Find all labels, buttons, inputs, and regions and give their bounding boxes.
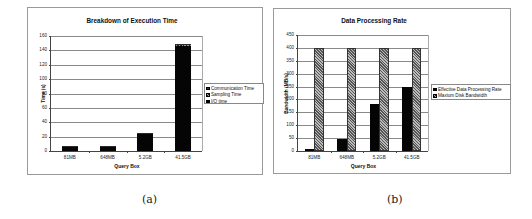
y-tick-label: 0 <box>278 148 294 153</box>
y-tick-label: 250 <box>278 84 294 89</box>
y-tick-label: 80 <box>31 91 47 96</box>
y-tick-label: 0 <box>31 148 47 153</box>
x-tick-label: 648MB <box>332 155 362 160</box>
legend-swatch-icon <box>206 93 210 97</box>
x-tick-mark <box>164 151 165 153</box>
chart-b-frame: Data Processing Rate Bandwidth (MB/s) Qu… <box>273 8 511 174</box>
y-tick-label: 50 <box>278 135 294 140</box>
chart-a-x-axis-title: Query Box <box>51 163 203 169</box>
y-tick-label: 200 <box>278 96 294 101</box>
legend-item: I/O time <box>206 98 262 105</box>
bar-segment <box>100 146 116 147</box>
legend-swatch-icon <box>433 88 437 92</box>
bar-segment <box>137 133 153 134</box>
bar <box>402 87 411 151</box>
x-tick-label: 5.2GB <box>364 155 394 160</box>
legend-label: Effective Data Processing Rate <box>438 87 502 92</box>
caption-a: (a) <box>142 193 157 206</box>
x-tick-label: 81MB <box>55 155 85 160</box>
y-axis-line <box>50 36 51 151</box>
x-tick-mark <box>331 151 332 153</box>
bar-segment <box>175 45 191 46</box>
x-tick-mark <box>363 151 364 153</box>
x-tick-mark <box>396 151 397 153</box>
y-tick-label: 40 <box>31 119 47 124</box>
legend-swatch-icon <box>206 100 210 104</box>
y-tick-label: 160 <box>31 33 47 38</box>
legend-swatch-icon <box>206 87 210 91</box>
legend-item: Communication Time <box>206 85 262 92</box>
gridline <box>51 36 202 37</box>
bar-segment <box>62 146 78 147</box>
chart-a-legend: Communication TimeSampling TimeI/O time <box>204 83 264 104</box>
x-tick-label: 5.2GB <box>130 155 160 160</box>
legend-item: Maxium Disk Bandwidth <box>433 93 509 100</box>
chart-a-plot-area <box>51 36 203 151</box>
bar <box>337 139 346 151</box>
legend-label: Communication Time <box>211 86 254 91</box>
caption-b: (b) <box>387 193 403 206</box>
gridline <box>298 35 428 36</box>
y-tick-label: 450 <box>278 32 294 37</box>
chart-a-title: Breakdown of Execution Time <box>28 17 236 24</box>
x-tick-label: 41.5GB <box>168 155 198 160</box>
y-tick-label: 150 <box>278 109 294 114</box>
x-tick-mark <box>127 151 128 153</box>
bar <box>379 48 388 151</box>
bar <box>412 48 421 151</box>
y-tick-label: 100 <box>278 122 294 127</box>
y-axis-line <box>297 35 298 151</box>
legend-label: Maxium Disk Bandwidth <box>438 93 487 98</box>
bar <box>347 48 356 151</box>
y-tick-label: 120 <box>31 62 47 67</box>
x-tick-label: 81MB <box>299 155 329 160</box>
legend-label: Sampling Time <box>211 92 241 97</box>
bar <box>370 104 379 151</box>
y-tick-label: 100 <box>31 76 47 81</box>
y-tick-label: 300 <box>278 71 294 76</box>
y-tick-label: 350 <box>278 58 294 63</box>
chart-b-x-axis-title: Query Box <box>298 163 429 169</box>
bar-segment <box>137 134 153 151</box>
legend-swatch-icon <box>433 94 437 98</box>
chart-b-plot-area <box>298 35 429 151</box>
chart-b-legend: Effective Data Processing RateMaxium Dis… <box>431 84 511 100</box>
x-tick-label: 41.5GB <box>397 155 427 160</box>
bar <box>314 48 323 151</box>
bar-segment <box>137 133 153 134</box>
x-tick-mark <box>89 151 90 153</box>
bar-segment <box>175 44 191 45</box>
y-tick-label: 20 <box>31 134 47 139</box>
legend-label: I/O time <box>211 99 227 104</box>
chart-b-title: Data Processing Rate <box>274 17 474 24</box>
bar-segment <box>62 147 78 148</box>
x-tick-label: 648MB <box>93 155 123 160</box>
y-tick-label: 400 <box>278 45 294 50</box>
bar-segment <box>100 147 116 148</box>
y-tick-label: 60 <box>31 105 47 110</box>
legend-item: Effective Data Processing Rate <box>433 86 509 93</box>
bar-segment <box>175 46 191 151</box>
y-tick-label: 140 <box>31 47 47 52</box>
chart-a-frame: Breakdown of Execution Time Time (s) Que… <box>27 7 263 175</box>
